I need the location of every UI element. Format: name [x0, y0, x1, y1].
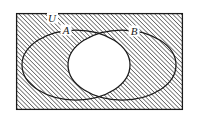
label-universe: U — [48, 12, 57, 24]
label-set-a: A — [62, 24, 70, 36]
label-set-b: B — [131, 25, 138, 37]
venn-diagram-figure: U A B — [0, 0, 197, 123]
venn-diagram-canvas: U A B — [0, 0, 197, 123]
